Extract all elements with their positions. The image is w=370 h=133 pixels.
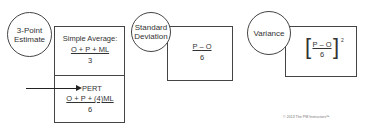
variance-right-bracket: ] xyxy=(333,36,339,58)
standard-deviation-label-line2: Deviation xyxy=(134,32,167,41)
pert-arrow-line xyxy=(26,88,76,89)
simple-average-denominator: 3 xyxy=(56,56,124,65)
standard-deviation-label-line1: Standard xyxy=(134,23,167,32)
copyright-notice: © 2013 The PM Instructors™ xyxy=(283,115,330,119)
three-point-label-line2: Estimate xyxy=(14,35,45,44)
variance-numerator: P – O xyxy=(310,40,334,49)
variance-denominator: 6 xyxy=(310,50,334,59)
variance-label: Variance xyxy=(254,29,285,38)
pert-denominator: 6 xyxy=(56,105,124,114)
standard-deviation-numerator: P – O xyxy=(182,42,222,51)
simple-average-label: Simple Average: xyxy=(56,34,124,43)
three-point-estimate-circle: 3-Point Estimate xyxy=(7,12,52,57)
standard-deviation-circle: Standard Deviation xyxy=(131,12,171,52)
pert-label: PERT xyxy=(82,84,102,93)
pert-numerator: O + P + (4)ML xyxy=(56,94,124,103)
three-point-label-line1: 3-Point xyxy=(14,26,45,35)
three-point-divider xyxy=(54,75,125,76)
variance-exponent: 2 xyxy=(341,37,344,43)
standard-deviation-denominator: 6 xyxy=(182,53,222,62)
variance-circle: Variance xyxy=(247,11,291,55)
simple-average-numerator: O + P + ML xyxy=(56,45,124,54)
